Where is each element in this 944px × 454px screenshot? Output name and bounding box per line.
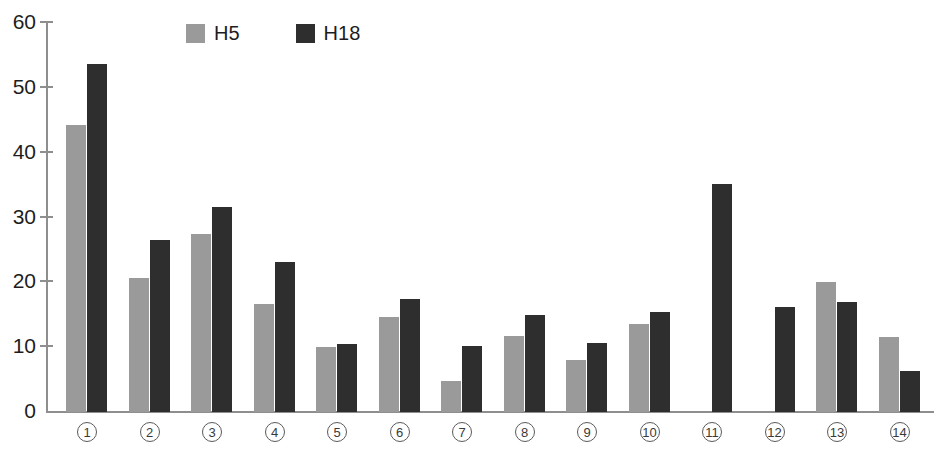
bar-group-7 <box>441 22 483 412</box>
category-label-8: 8 <box>505 421 545 443</box>
category-label-12: 12 <box>755 421 795 443</box>
bar-group-9 <box>566 22 608 412</box>
bar-h5-7 <box>441 381 461 412</box>
bar-h18-1 <box>87 64 107 412</box>
y-axis-label-20: 20 <box>0 270 36 291</box>
bar-h18-8 <box>525 315 545 412</box>
y-axis-label-10: 10 <box>0 335 36 356</box>
circled-number: 10 <box>640 422 660 442</box>
circled-number: 6 <box>390 422 410 442</box>
bar-h5-9 <box>566 360 586 412</box>
bar-chart: H5 H18 6050403020100 1234567891011121314 <box>0 0 944 454</box>
bar-h5-6 <box>379 317 399 412</box>
circled-number: 1 <box>77 422 97 442</box>
bar-group-12 <box>754 22 796 412</box>
bar-group-2 <box>129 22 171 412</box>
bar-group-8 <box>504 22 546 412</box>
category-label-9: 9 <box>567 421 607 443</box>
bar-h18-6 <box>400 299 420 412</box>
bar-h5-14 <box>879 337 899 412</box>
y-axis-label-60: 60 <box>0 11 36 32</box>
circled-number: 9 <box>577 422 597 442</box>
circled-number: 3 <box>202 422 222 442</box>
y-axis-label-30: 30 <box>0 206 36 227</box>
bar-h18-3 <box>212 207 232 412</box>
bar-group-4 <box>254 22 296 412</box>
bar-group-5 <box>316 22 358 412</box>
category-label-5: 5 <box>317 421 357 443</box>
bar-group-10 <box>629 22 671 412</box>
bar-h18-11 <box>712 184 732 412</box>
bar-h18-10 <box>650 312 670 412</box>
bar-h18-13 <box>837 302 857 412</box>
bar-h5-2 <box>129 278 149 412</box>
category-label-11: 11 <box>692 421 732 443</box>
bar-h5-4 <box>254 304 274 412</box>
circled-number: 14 <box>890 422 910 442</box>
category-label-7: 7 <box>442 421 482 443</box>
bar-group-14 <box>879 22 921 412</box>
bar-h18-14 <box>900 371 920 412</box>
bar-h18-5 <box>337 344 357 412</box>
category-label-14: 14 <box>880 421 920 443</box>
bar-group-11 <box>691 22 733 412</box>
bar-h18-2 <box>150 240 170 412</box>
circled-number: 11 <box>702 422 722 442</box>
category-label-4: 4 <box>255 421 295 443</box>
bar-h5-5 <box>316 347 336 412</box>
category-label-3: 3 <box>192 421 232 443</box>
bar-h18-9 <box>587 343 607 412</box>
circled-number: 4 <box>265 422 285 442</box>
circled-number: 13 <box>827 422 847 442</box>
y-axis-label-50: 50 <box>0 76 36 97</box>
category-label-1: 1 <box>67 421 107 443</box>
circled-number: 8 <box>515 422 535 442</box>
bar-h5-10 <box>629 324 649 412</box>
category-label-10: 10 <box>630 421 670 443</box>
category-label-13: 13 <box>817 421 857 443</box>
bar-group-1 <box>66 22 108 412</box>
bar-h5-1 <box>66 125 86 412</box>
bar-h5-3 <box>191 234 211 412</box>
bar-group-6 <box>379 22 421 412</box>
circled-number: 12 <box>765 422 785 442</box>
bar-h5-8 <box>504 336 524 413</box>
circled-number: 2 <box>140 422 160 442</box>
bar-group-3 <box>191 22 233 412</box>
bar-h18-4 <box>275 262 295 412</box>
bar-h18-7 <box>462 346 482 412</box>
plot-area <box>48 22 934 412</box>
category-label-2: 2 <box>130 421 170 443</box>
bar-group-13 <box>816 22 858 412</box>
y-axis-label-0: 0 <box>0 400 36 421</box>
category-label-6: 6 <box>380 421 420 443</box>
circled-number: 7 <box>452 422 472 442</box>
y-axis-label-40: 40 <box>0 141 36 162</box>
bar-h5-13 <box>816 282 836 412</box>
circled-number: 5 <box>327 422 347 442</box>
bar-h18-12 <box>775 307 795 412</box>
